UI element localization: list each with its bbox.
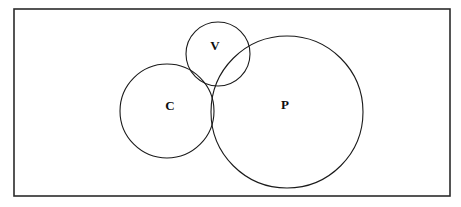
- set-circle-v: [186, 22, 250, 86]
- venn-diagram: V C P: [0, 0, 461, 207]
- venn-diagram-canvas: V C P: [0, 0, 461, 207]
- set-label-c: C: [165, 98, 174, 113]
- universal-set-rectangle: [14, 9, 450, 196]
- set-label-p: P: [281, 97, 289, 112]
- set-label-v: V: [210, 38, 220, 53]
- set-circle-p: [211, 36, 363, 188]
